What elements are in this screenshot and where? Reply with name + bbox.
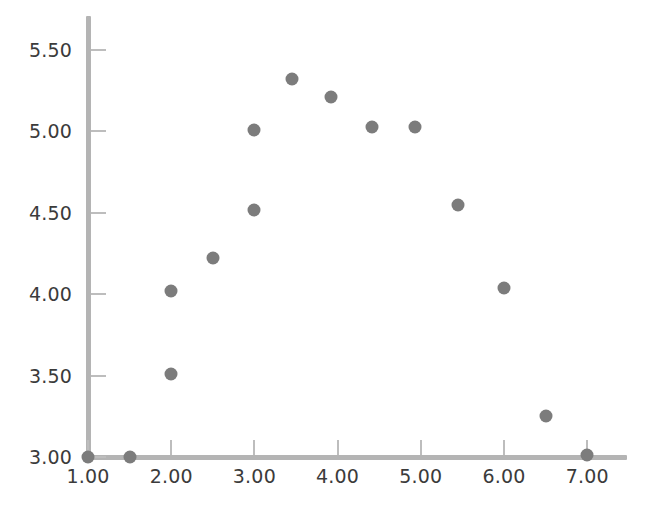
x-axis-tick-label-text: 7.00 [542, 465, 632, 487]
x-axis-tick-label-text: 4.00 [293, 465, 383, 487]
x-axis-tick [170, 440, 172, 455]
x-axis-line [86, 455, 627, 460]
y-axis-tick-label: 5.00 [0, 120, 80, 142]
y-axis-tick-label-text: 5.00 [29, 120, 72, 142]
y-axis-tick [91, 130, 106, 132]
y-axis-tick [91, 293, 106, 295]
x-axis-tick-label: 6.00 [459, 465, 549, 489]
data-point [365, 120, 378, 133]
data-point [452, 198, 465, 211]
data-point [165, 367, 178, 380]
y-axis-tick-label-text: 3.50 [29, 365, 72, 387]
x-axis-tick [420, 440, 422, 455]
data-point [123, 451, 136, 464]
x-axis-tick-label: 4.00 [293, 465, 383, 489]
data-point [324, 91, 337, 104]
x-axis-tick-label-text: 2.00 [126, 465, 216, 487]
x-axis-tick-label-text: 3.00 [209, 465, 299, 487]
data-point [285, 73, 298, 86]
data-point [539, 410, 552, 423]
y-axis-tick [91, 212, 106, 214]
data-point [581, 449, 594, 462]
data-point [248, 123, 261, 136]
y-axis-tick-label-text: 4.00 [29, 283, 72, 305]
x-axis-tick-label-text: 1.00 [43, 465, 133, 487]
data-point [498, 281, 511, 294]
data-point [82, 451, 95, 464]
x-axis-tick-label: 7.00 [542, 465, 632, 489]
x-axis-tick [337, 440, 339, 455]
x-axis-tick [503, 440, 505, 455]
data-point [408, 120, 421, 133]
x-axis-tick-label: 5.00 [376, 465, 466, 489]
y-axis-tick-label-text: 4.50 [29, 202, 72, 224]
data-point [165, 284, 178, 297]
data-point [206, 252, 219, 265]
x-axis-tick-label: 1.00 [43, 465, 133, 489]
x-axis-tick-label-text: 6.00 [459, 465, 549, 487]
x-axis-tick-label: 3.00 [209, 465, 299, 489]
x-axis-tick [253, 440, 255, 455]
x-axis-tick-label: 2.00 [126, 465, 216, 489]
x-axis-tick-label-text: 5.00 [376, 465, 466, 487]
y-axis-tick-label: 4.00 [0, 283, 80, 305]
y-axis-tick-label: 4.50 [0, 202, 80, 224]
y-axis-tick-label: 5.50 [0, 39, 80, 61]
y-axis-tick [91, 49, 106, 51]
scatter-plot-figure: 3.003.504.004.505.005.50 1.002.003.004.0… [0, 0, 656, 514]
y-axis-tick-label: 3.50 [0, 365, 80, 387]
y-axis-tick-label-text: 5.50 [29, 39, 72, 61]
y-axis-tick [91, 375, 106, 377]
y-axis-line [86, 16, 91, 459]
data-point [248, 203, 261, 216]
